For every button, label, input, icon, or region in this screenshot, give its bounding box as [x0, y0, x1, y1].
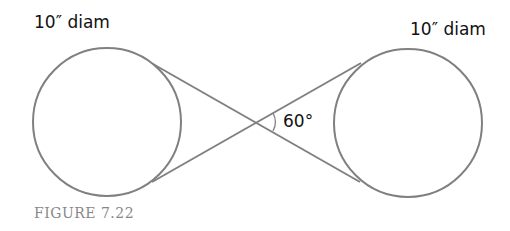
left-diameter-label: 10″ diam	[34, 12, 110, 32]
right-pulley	[334, 49, 482, 197]
angle-label: 60°	[283, 111, 313, 131]
left-pulley	[33, 48, 181, 196]
right-diameter-label: 10″ diam	[410, 19, 486, 39]
figure-caption: FIGURE 7.22	[34, 205, 134, 221]
angle-arc	[273, 113, 275, 131]
